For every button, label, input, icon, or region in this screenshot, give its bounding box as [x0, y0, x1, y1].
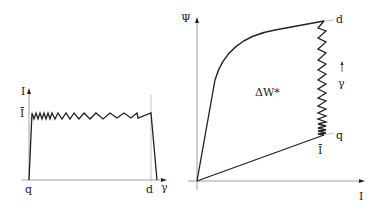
right-zigzag [318, 21, 326, 135]
right-lower-line [197, 135, 324, 181]
right-d-leader [324, 20, 334, 21]
diagram-canvas: I Ī q d γ Ψ I d q Ī γ ΔW* [0, 0, 383, 208]
left-x-axis-label: γ [161, 181, 168, 194]
left-y-level-label: Ī [20, 107, 24, 120]
right-area-label: ΔW* [255, 86, 280, 99]
left-y-axis-label: I [21, 85, 25, 98]
right-bottom-point-label: q [336, 129, 343, 142]
left-x-end-label: d [146, 183, 153, 196]
right-y-axis-arrow-icon [195, 17, 199, 23]
right-direction-arrow-icon [341, 61, 344, 65]
right-x-axis-label: I [359, 190, 363, 203]
right-x-axis-arrow-icon [359, 179, 365, 183]
left-y-axis-arrow-icon [27, 88, 31, 94]
left-curve [29, 113, 157, 180]
right-top-point-label: d [336, 13, 343, 26]
right-y-axis-label: Ψ [181, 12, 191, 25]
left-x-start-label: q [25, 183, 32, 196]
right-direction-label: γ [338, 77, 345, 90]
left-panel: I Ī q d γ [20, 85, 168, 196]
right-bottom-value-label: Ī [318, 144, 322, 157]
right-upper-curve [197, 21, 324, 181]
right-panel: Ψ I d q Ī γ ΔW* [181, 12, 365, 203]
